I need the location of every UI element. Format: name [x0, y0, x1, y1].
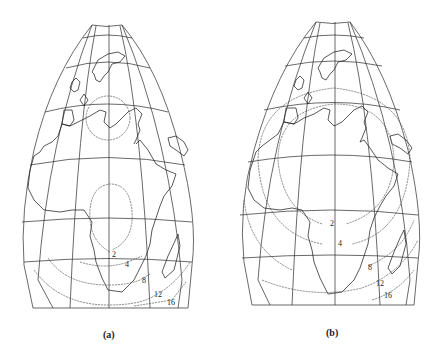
caption-a: (a)	[103, 329, 115, 340]
contour-label-2: 2	[112, 250, 116, 259]
contour-label-2: 2	[330, 219, 334, 228]
contour-label-8: 8	[368, 263, 372, 272]
caption-b: (b)	[326, 327, 338, 338]
map-b-boundary	[242, 22, 419, 305]
contour-label-12: 12	[154, 290, 162, 299]
contour-label-12: 12	[376, 279, 384, 288]
contour-label-8: 8	[142, 276, 146, 285]
map-panel-b: 2 4 8 12 16 (b)	[222, 0, 445, 358]
map-panel-a: 2 4 8 12 16 (a)	[0, 0, 222, 358]
contour-label-16: 16	[167, 298, 175, 307]
contour-label-4: 4	[125, 260, 129, 269]
contour-label-4: 4	[338, 239, 342, 248]
map-a-boundary	[23, 25, 193, 308]
contour-label-16: 16	[384, 291, 392, 300]
map-a-graphic: 2 4 8 12 16	[0, 0, 222, 358]
map-b-graphic: 2 4 8 12 16	[222, 0, 445, 358]
